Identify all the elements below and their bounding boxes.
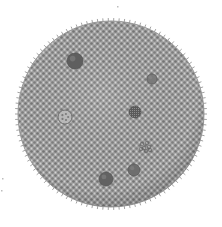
daughter-colony-small: [147, 74, 157, 84]
daughter-colony-textured: [129, 106, 141, 118]
speck: [2, 178, 4, 180]
daughter-colony-ringed: [58, 110, 72, 124]
volvox-illustration: [0, 0, 222, 227]
daughter-colony-bottom-right: [128, 164, 140, 176]
speck: [117, 6, 119, 8]
speck: [1, 190, 3, 192]
daughter-colony-bottom-left: [99, 172, 113, 186]
daughter-colony-large: [67, 53, 83, 69]
